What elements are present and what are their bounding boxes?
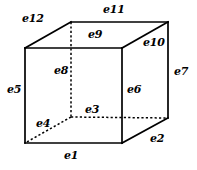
edge-label-e5: e5 (7, 84, 21, 95)
edge-label-e1: e1 (64, 150, 78, 161)
edge-e3-line (71, 117, 168, 118)
cube-wireframe (0, 0, 197, 170)
edge-label-e2: e2 (150, 133, 164, 144)
edge-label-e8: e8 (54, 65, 68, 76)
edge-label-e11: e11 (103, 4, 125, 15)
edge-e12-line (25, 22, 71, 48)
edge-label-e10: e10 (143, 37, 165, 48)
edge-label-e6: e6 (127, 84, 141, 95)
edge-label-e12: e12 (22, 13, 44, 24)
edge-label-e3: e3 (85, 104, 99, 115)
edge-label-e7: e7 (174, 66, 188, 77)
edge-label-e4: e4 (36, 118, 50, 129)
edge-label-e9: e9 (88, 29, 102, 40)
cube-diagram: e1 e2 e3 e4 e5 e6 e7 e8 e9 e10 e11 e12 (0, 0, 197, 170)
